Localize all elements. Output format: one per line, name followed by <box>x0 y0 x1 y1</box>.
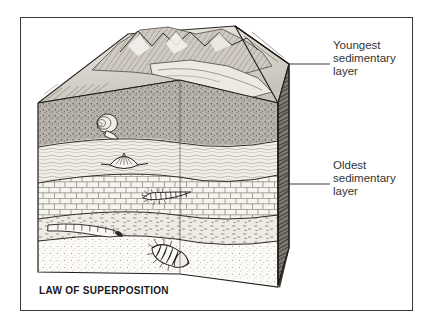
label-oldest-sedimentary-layer: Oldest sedimentary layer <box>333 159 396 199</box>
figure-caption: LAW OF SUPERPOSITION <box>39 285 169 296</box>
label-youngest-sedimentary-layer: Youngest sedimentary layer <box>333 39 396 79</box>
figure-canvas: Youngest sedimentary layer Oldest sedime… <box>0 0 430 331</box>
